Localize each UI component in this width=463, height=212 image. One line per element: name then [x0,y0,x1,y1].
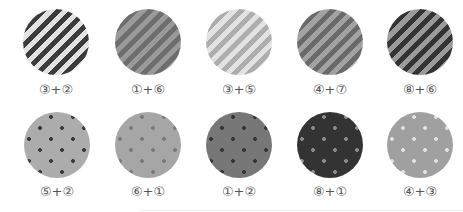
swatch-stripes-1-6 [115,9,181,75]
swatch-dots-6-1 [115,112,181,178]
swatch-label: ④+⑦ [290,82,370,98]
swatch-dots-4-3 [387,112,453,178]
swatch-label: ④+③ [380,184,460,200]
swatch-dots-1-2 [206,112,272,178]
swatch-stripes-3-5 [206,9,272,75]
swatch-label: ①+⑥ [108,82,188,98]
swatch-label: ③+⑤ [199,82,279,98]
swatch-stripes-4-7 [297,9,363,75]
swatch-stripes-8-6 [387,9,453,75]
swatch-label: ①+② [199,184,279,200]
swatch-label: ⑧+① [290,184,370,200]
swatch-label: ③+② [16,82,96,98]
swatch-label: ⑥+① [108,184,188,200]
swatch-dots-5-2 [24,112,90,178]
swatch-label: ⑤+② [17,184,97,200]
swatch-stripes-3-2 [23,9,89,75]
divider [140,210,463,211]
swatch-label: ⑧+⑥ [380,82,460,98]
swatch-dots-8-1 [297,112,363,178]
